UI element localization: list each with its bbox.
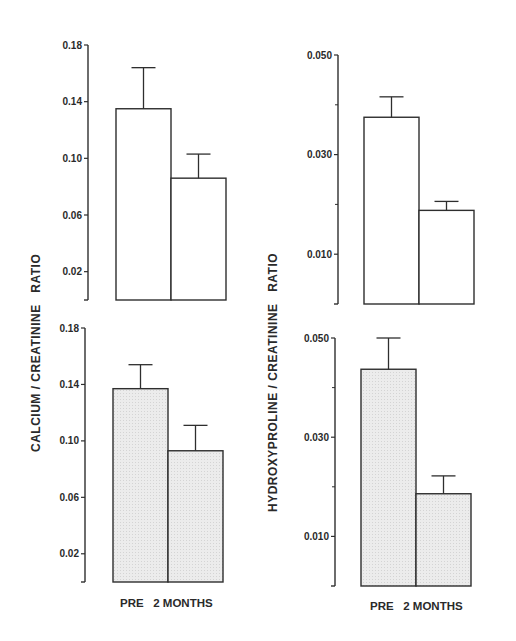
bar-pre xyxy=(113,389,168,582)
y-tick-label: 0.10 xyxy=(60,435,80,446)
y-tick-label: 0.030 xyxy=(307,149,332,160)
right-x-axis-label: PRE 2 MONTHS xyxy=(370,600,463,612)
bar-2-months xyxy=(419,210,474,304)
panel-bottom-left: 0.020.060.100.140.18 xyxy=(60,323,223,583)
figure: 0.020.060.100.140.180.0100.0300.0500.020… xyxy=(0,0,516,641)
left-y-axis-label: CALCIUM / CREATININE RATIO xyxy=(29,254,43,452)
bar-2-months xyxy=(171,178,226,300)
y-tick-label: 0.06 xyxy=(60,492,80,503)
y-tick-label: 0.02 xyxy=(63,266,83,277)
y-tick-label: 0.010 xyxy=(307,249,332,260)
y-tick-label: 0.02 xyxy=(60,548,80,559)
bar-pre xyxy=(361,369,416,586)
left-x-axis-label: PRE 2 MONTHS xyxy=(120,597,213,609)
y-tick-label: 0.18 xyxy=(63,40,83,51)
y-tick-label: 0.030 xyxy=(304,432,329,443)
bar-2-months xyxy=(168,451,223,582)
bar-pre xyxy=(116,109,171,300)
y-tick-label: 0.10 xyxy=(63,153,83,164)
y-tick-label: 0.18 xyxy=(60,323,80,334)
y-tick-label: 0.14 xyxy=(60,379,80,390)
panel-top-left: 0.020.060.100.140.18 xyxy=(63,40,226,301)
right-y-axis-label: HYDROXYPROLINE / CREATININE RATIO xyxy=(266,253,280,512)
y-tick-label: 0.06 xyxy=(63,210,83,221)
bar-2-months xyxy=(416,494,471,586)
y-tick-label: 0.010 xyxy=(304,531,329,542)
bar-pre xyxy=(364,117,419,304)
panel-bottom-right: 0.0100.0300.050 xyxy=(304,333,471,587)
y-tick-label: 0.14 xyxy=(63,96,83,107)
panel-top-right: 0.0100.0300.050 xyxy=(307,50,474,305)
y-tick-label: 0.050 xyxy=(307,50,332,61)
chart-canvas: 0.020.060.100.140.180.0100.0300.0500.020… xyxy=(0,0,516,641)
y-tick-label: 0.050 xyxy=(304,333,329,344)
